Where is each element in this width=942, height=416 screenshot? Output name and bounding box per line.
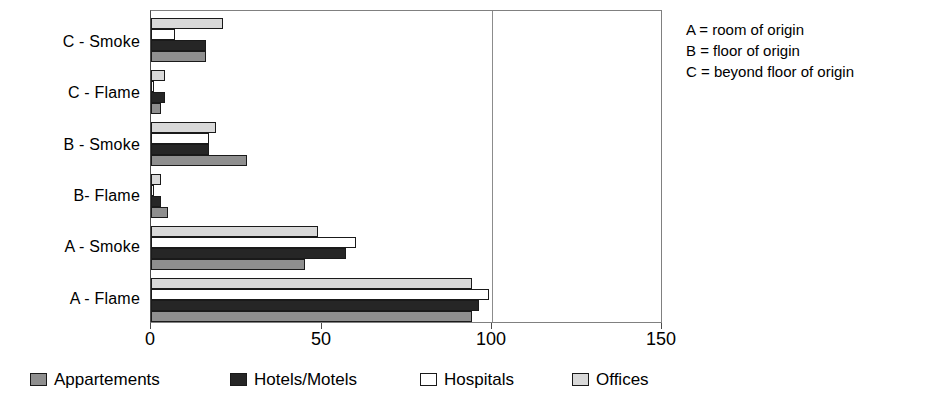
legend-swatch-offices-icon bbox=[572, 373, 589, 386]
legend-label-hospitals: Hospitals bbox=[444, 371, 514, 388]
bar-group-c-flame bbox=[151, 68, 661, 120]
key-line-c: C = beyond floor of origin bbox=[686, 61, 854, 82]
legend-item-appartements: Appartements bbox=[30, 371, 160, 388]
bar-b-smoke-hospitals bbox=[151, 133, 209, 144]
bar-b-flame-appartements bbox=[151, 207, 168, 218]
bar-a-smoke-hotels bbox=[151, 248, 346, 259]
x-tick-label-150: 150 bbox=[631, 330, 691, 348]
bar-b-flame-hotels bbox=[151, 196, 161, 207]
y-tick-label-a-smoke: A - Smoke bbox=[0, 239, 140, 255]
legend-label-offices: Offices bbox=[596, 371, 649, 388]
key-line-b: B = floor of origin bbox=[686, 40, 854, 61]
legend-item-hotels-motels: Hotels/Motels bbox=[230, 371, 357, 388]
bar-a-smoke-hospitals bbox=[151, 237, 356, 248]
x-tick-label-100: 100 bbox=[461, 330, 521, 348]
legend-item-hospitals: Hospitals bbox=[420, 371, 514, 388]
chart-legend: Appartements Hotels/Motels Hospitals Off… bbox=[30, 371, 670, 397]
bar-b-flame-hospitals bbox=[151, 185, 154, 196]
bar-b-smoke-hotels bbox=[151, 144, 209, 155]
bar-b-flame-offices bbox=[151, 174, 161, 185]
legend-swatch-hospitals-icon bbox=[420, 373, 437, 386]
bar-c-smoke-appartements bbox=[151, 51, 206, 62]
y-tick-label-b-smoke: B - Smoke bbox=[0, 137, 140, 153]
bar-c-flame-appartements bbox=[151, 103, 161, 114]
x-tick-label-50: 50 bbox=[291, 330, 351, 348]
bar-a-smoke-offices bbox=[151, 226, 318, 237]
bar-a-flame-hospitals bbox=[151, 289, 489, 300]
bar-a-smoke-appartements bbox=[151, 259, 305, 270]
bar-c-flame-hotels bbox=[151, 92, 165, 103]
bar-b-smoke-appartements bbox=[151, 155, 247, 166]
bar-group-c-smoke bbox=[151, 16, 661, 68]
bar-c-smoke-offices bbox=[151, 18, 223, 29]
legend-key-annotations: A = room of origin B = floor of origin C… bbox=[686, 19, 854, 82]
bar-c-flame-offices bbox=[151, 70, 165, 81]
legend-label-hotels-motels: Hotels/Motels bbox=[254, 371, 357, 388]
legend-item-offices: Offices bbox=[572, 371, 649, 388]
y-tick-label-a-flame: A - Flame bbox=[0, 291, 140, 307]
bar-a-flame-hotels bbox=[151, 300, 479, 311]
bar-group-a-flame bbox=[151, 276, 661, 328]
bar-group-b-flame bbox=[151, 172, 661, 224]
bar-chart-figure: C - Smoke C - Flame B - Smoke B- Flame A… bbox=[0, 0, 942, 416]
bar-group-a-smoke bbox=[151, 224, 661, 276]
y-tick-label-c-smoke: C - Smoke bbox=[0, 34, 140, 50]
bar-a-flame-appartements bbox=[151, 311, 472, 322]
legend-swatch-hotels-motels-icon bbox=[230, 373, 247, 386]
bar-group-b-smoke bbox=[151, 120, 661, 172]
bar-c-smoke-hotels bbox=[151, 40, 206, 51]
bar-c-flame-hospitals bbox=[151, 81, 154, 92]
y-tick-label-b-flame: B- Flame bbox=[0, 188, 140, 204]
bar-a-flame-offices bbox=[151, 278, 472, 289]
legend-label-appartements: Appartements bbox=[54, 371, 160, 388]
y-tick-label-c-flame: C - Flame bbox=[0, 85, 140, 101]
key-line-a: A = room of origin bbox=[686, 19, 854, 40]
bar-c-smoke-hospitals bbox=[151, 29, 175, 40]
x-tick-label-0: 0 bbox=[120, 330, 180, 348]
bar-b-smoke-offices bbox=[151, 122, 216, 133]
legend-swatch-appartements-icon bbox=[30, 373, 47, 386]
plot-area bbox=[150, 10, 662, 323]
